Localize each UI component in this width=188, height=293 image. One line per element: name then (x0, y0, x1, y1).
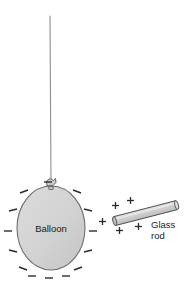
rod-label-line1: Glass (151, 219, 176, 230)
diagram-canvas: Balloon (0, 0, 188, 293)
balloon-label: Balloon (35, 223, 67, 234)
rod-label-line2: rod (151, 230, 165, 241)
electrostatics-diagram: Balloon (0, 0, 188, 293)
